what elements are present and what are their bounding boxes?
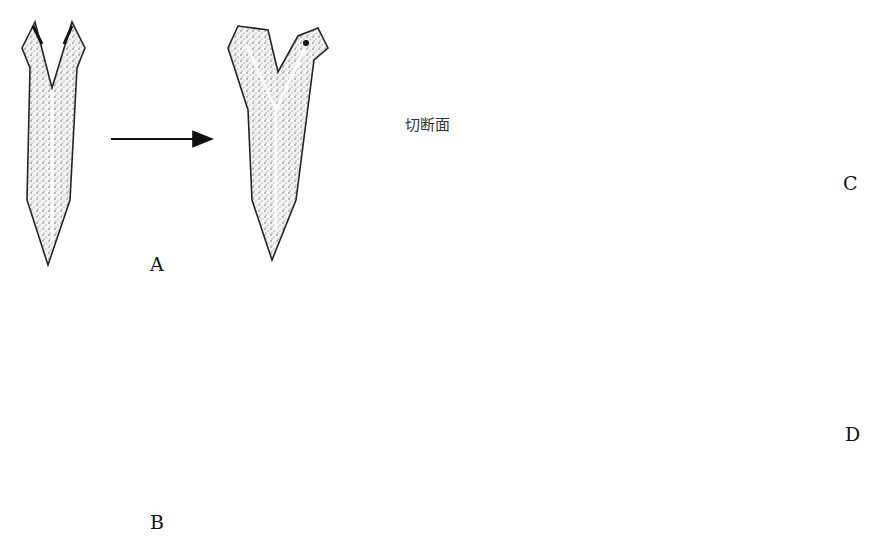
label-d: D: [845, 423, 860, 445]
panel-a-before-worm: [22, 22, 85, 265]
label-a: A: [150, 253, 164, 275]
label-c: C: [843, 172, 858, 194]
label-b: B: [150, 511, 164, 533]
panel-a-after-worm: [228, 26, 328, 260]
cut-plane-label: 切断面: [405, 113, 450, 134]
diagram-canvas: [0, 0, 873, 544]
